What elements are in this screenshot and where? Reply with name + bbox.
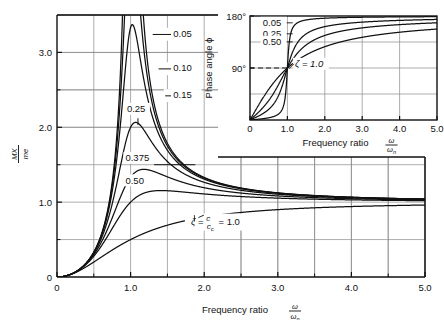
main-xtick-label: 3.0 [271, 282, 284, 293]
main-axis-titles: Frequency ratioωωnMXme [10, 145, 302, 320]
main-curve-label: 0.25 [127, 103, 146, 114]
inset-yaxis-title: Phase angle ϕ [203, 38, 214, 99]
main-ytick-label: 3.0 [39, 47, 52, 58]
main-xtick-label: 4.0 [345, 282, 358, 293]
inset-xtick-label: 0 [247, 123, 252, 134]
main-curve-label: 0.10 [173, 62, 192, 73]
main-xtick-label: 1.0 [124, 282, 137, 293]
main-curve-label: 0.15 [173, 89, 192, 100]
main-xtick-label: 5.0 [418, 282, 431, 293]
main-xaxis-title: Frequency ratio [202, 304, 268, 315]
main-xtick-label: 2.0 [198, 282, 211, 293]
main-origin-label: 0 [47, 272, 52, 283]
inset-curve-label: 0.50 [263, 36, 282, 47]
inset-curve-label: 0.05 [263, 17, 282, 28]
vibration-response-figure: 01.02.03.04.05.01.02.03.000.050.100.150.… [0, 0, 444, 320]
main-curve-label: 0.05 [173, 28, 192, 39]
main-yaxis-denominator: me [21, 149, 30, 159]
main-curve-labels: 0.050.100.150.250.3750.50 [123, 27, 201, 186]
main-yaxis-numerator: MX [10, 147, 19, 159]
main-zeta-annotation: ζ = c cc = 1.0 [185, 214, 269, 232]
inset-xtick-label: 5.0 [430, 123, 443, 134]
main-chart: 01.02.03.04.05.01.02.03.000.050.100.150.… [10, 0, 444, 320]
inset-xtick-label: 1.0 [281, 123, 294, 134]
inset-ytick-label: 180° [226, 11, 246, 22]
inset-xaxis-title: Frequency ratio [302, 137, 368, 148]
figure-root: 01.02.03.04.05.01.02.03.000.050.100.150.… [0, 0, 444, 320]
inset-zeta-annotation: ζ = 1.0 [295, 58, 324, 69]
main-curve-label: 0.50 [125, 175, 144, 186]
inset-backing-mask [218, 4, 444, 157]
inset-xaxis-fraction-numerator: ω [389, 136, 395, 145]
main-curve-label: 0.375 [125, 152, 149, 163]
inset-xtick-label: 4.0 [393, 123, 406, 134]
main-ytick-label: 2.0 [39, 122, 52, 133]
inset-ytick-label: 90° [232, 63, 247, 74]
main-xaxis-fraction-denominator: ωn [291, 312, 300, 320]
main-yaxis-title: MXme [10, 145, 31, 163]
inset-xtick-label: 2.0 [318, 123, 331, 134]
main-xaxis-fraction-numerator: ω [292, 302, 298, 311]
main-ytick-label: 1.0 [39, 197, 52, 208]
main-xtick-label: 0 [54, 282, 59, 293]
inset-xtick-label: 3.0 [356, 123, 369, 134]
inset-yaxis-title-text: Phase angle ϕ [203, 38, 214, 99]
